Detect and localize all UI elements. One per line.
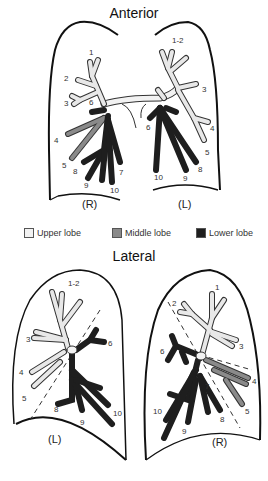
ant-r-seg-5: 5 (62, 161, 67, 170)
lat-r-seg-4: 4 (252, 377, 257, 386)
legend-label: Middle lobe (125, 228, 171, 238)
ant-r-seg-6: 6 (89, 98, 94, 107)
lower-lobe-swatch-icon (196, 228, 206, 238)
ant-r-seg-2: 2 (64, 74, 69, 83)
lat-r-seg-6: 6 (160, 347, 165, 356)
lat-l-seg-8: 8 (54, 405, 59, 414)
ant-r-seg-3: 3 (64, 99, 69, 108)
ant-r-seg-9: 9 (84, 181, 89, 190)
lat-r-seg-9: 9 (182, 427, 187, 436)
lat-l-seg-5: 5 (22, 394, 27, 403)
ant-l-seg-9: 9 (183, 174, 188, 183)
lat-r-seg-2: 2 (172, 299, 177, 308)
ant-left-side-label: (L) (178, 198, 191, 210)
legend-upper-lobe: Upper lobe (24, 228, 81, 238)
lat-r-seg-10: 10 (153, 407, 162, 416)
ant-l-seg-4: 4 (210, 124, 215, 133)
ant-r-seg-8: 8 (73, 167, 78, 176)
legend: Upper lobe Middle lobe Lower lobe (0, 228, 268, 244)
legend-label: Upper lobe (37, 228, 81, 238)
anterior-right-lung-outline (49, 22, 118, 200)
lat-right-side-label: (R) (212, 436, 227, 448)
legend-middle-lobe: Middle lobe (112, 228, 171, 238)
ant-right-side-label: (R) (82, 198, 97, 210)
lateral-title: Lateral (0, 248, 268, 264)
ant-r-seg-7: 7 (119, 168, 124, 177)
lat-l-seg-1-2: 1-2 (68, 279, 80, 288)
upper-lobe-swatch-icon (24, 228, 34, 238)
ant-r-seg-1: 1 (89, 48, 94, 57)
lat-r-seg-3: 3 (239, 342, 244, 351)
legend-label: Lower lobe (209, 228, 253, 238)
lat-r-seg-7: 7 (205, 382, 210, 391)
lateral-right-lung-outline (145, 270, 261, 460)
lat-l-seg-10: 10 (113, 409, 122, 418)
ant-l-seg-6: 6 (146, 123, 151, 132)
lat-l-seg-3: 3 (26, 335, 31, 344)
lateral-view: 1-2 3 4 5 6 8 9 10 (L) (13, 270, 261, 460)
lat-r-seg-1: 1 (215, 283, 220, 292)
anterior-left-lung-base (153, 185, 218, 190)
lat-left-side-label: (L) (48, 433, 61, 445)
ant-l-seg-10: 10 (154, 173, 163, 182)
lat-r-seg-8: 8 (220, 415, 225, 424)
ant-l-seg-8: 8 (198, 165, 203, 174)
legend-lower-lobe: Lower lobe (196, 228, 253, 238)
lat-l-seg-4: 4 (19, 368, 24, 377)
ant-r-seg-4: 4 (54, 136, 59, 145)
lat-r-seg-5: 5 (245, 407, 250, 416)
ant-l-seg-5: 5 (205, 148, 210, 157)
lat-l-seg-9: 9 (80, 418, 85, 427)
ant-l-seg-1-2: 1-2 (172, 36, 184, 45)
anterior-view: 1 2 3 4 5 6 7 8 9 10 1-2 3 4 5 6 8 9 10 … (49, 22, 220, 210)
ant-r-seg-10: 10 (110, 186, 119, 195)
ant-l-seg-3: 3 (202, 85, 207, 94)
middle-lobe-swatch-icon (112, 228, 122, 238)
lat-l-seg-6: 6 (108, 339, 113, 348)
